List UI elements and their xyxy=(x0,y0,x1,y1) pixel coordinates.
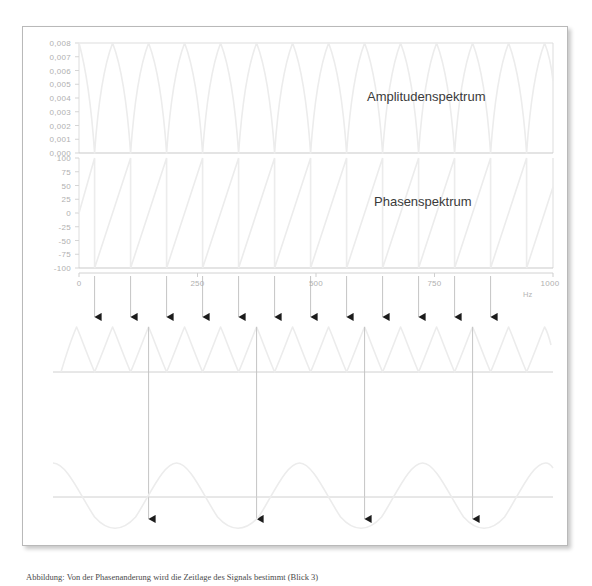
amplitude-spectrum-label: Amplitudenspektrum xyxy=(367,89,486,104)
lower-time-signal-curve xyxy=(53,463,553,528)
amplitude-y-tick-label: 0,005 xyxy=(23,80,71,89)
phase-y-tick-label: -25 xyxy=(23,222,71,231)
upper-to-lower-signal-arrows xyxy=(149,327,473,519)
phase-y-tick-label: 25 xyxy=(23,195,71,204)
phase-y-ticks xyxy=(75,158,79,268)
amplitude-y-tick-label: 0,006 xyxy=(23,66,71,75)
phase-spectrum-curve xyxy=(79,158,553,268)
frequency-axis xyxy=(79,273,553,277)
amplitude-y-tick-label: 0,003 xyxy=(23,107,71,116)
frequency-axis-ticks xyxy=(79,273,553,277)
frequency-tick-label: 1000 xyxy=(541,279,560,288)
phase-y-tick-label: 0 xyxy=(23,209,71,218)
frequency-tick-label: 750 xyxy=(427,279,441,288)
frequency-axis-unit: Hz xyxy=(523,290,532,299)
amplitude-y-tick-label: 0,008 xyxy=(23,39,71,48)
figure-frame: 0,008 0,007 0,006 0,005 0,004 0,003 0,00… xyxy=(22,26,568,546)
lower-time-signal-panel xyxy=(53,463,553,528)
phase-y-tick-label: 100 xyxy=(23,154,71,163)
phase-y-tick-label: -75 xyxy=(23,250,71,259)
plot-surface: 0,008 0,007 0,006 0,005 0,004 0,003 0,00… xyxy=(23,27,567,545)
frequency-tick-label: 0 xyxy=(77,279,82,288)
frequency-tick-label: 250 xyxy=(190,279,204,288)
figure-canvas xyxy=(23,27,569,547)
amplitude-y-tick-label: 0,001 xyxy=(23,135,71,144)
amplitude-y-tick-label: 0,002 xyxy=(23,121,71,130)
amplitude-y-tick-label: 0,004 xyxy=(23,94,71,103)
amplitude-y-ticks xyxy=(75,43,79,153)
upper-time-signal-curve xyxy=(61,327,551,372)
figure-caption: Abbildung: Von der Phasenanderung wird d… xyxy=(26,572,574,586)
phase-spectrum-label: Phasenspektrum xyxy=(374,194,472,209)
phase-y-tick-label: -50 xyxy=(23,236,71,245)
amplitude-y-tick-label: 0,007 xyxy=(23,52,71,61)
frequency-tick-label: 500 xyxy=(309,279,323,288)
phase-y-tick-label: -100 xyxy=(23,264,71,273)
phase-y-tick-label: 50 xyxy=(23,181,71,190)
upper-time-signal-panel xyxy=(53,327,553,372)
phase-spectrum-panel xyxy=(75,158,553,268)
phase-y-tick-label: 75 xyxy=(23,167,71,176)
